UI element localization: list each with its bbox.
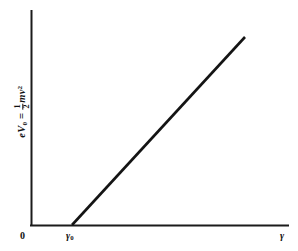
y-axis-label-equals: = [16, 110, 27, 122]
y-axis-label-text: eV0 = 12mv2 [14, 86, 31, 138]
threshold-frequency-subscript: 0 [70, 234, 73, 241]
data-series-line [72, 37, 245, 225]
y-axis-label-mv: mv [16, 90, 27, 103]
threshold-frequency-label: γ0 [66, 231, 74, 242]
y-axis-label-half-denominator: 2 [23, 104, 31, 110]
y-axis-label: eV0 = 12mv2 [12, 62, 34, 162]
origin-label: 0 [20, 231, 25, 241]
y-axis-label-half: 12 [14, 104, 31, 110]
y-axis-label-ev-sub: 0 [21, 122, 29, 126]
photoelectric-effect-figure: eV0 = 12mv2 0 γ0 γ [0, 0, 298, 251]
y-axis-label-mv-sup: 2 [16, 86, 24, 90]
plot-canvas [0, 0, 298, 251]
y-axis-label-ev: eV [16, 126, 27, 138]
x-axis-label: γ [280, 231, 284, 241]
